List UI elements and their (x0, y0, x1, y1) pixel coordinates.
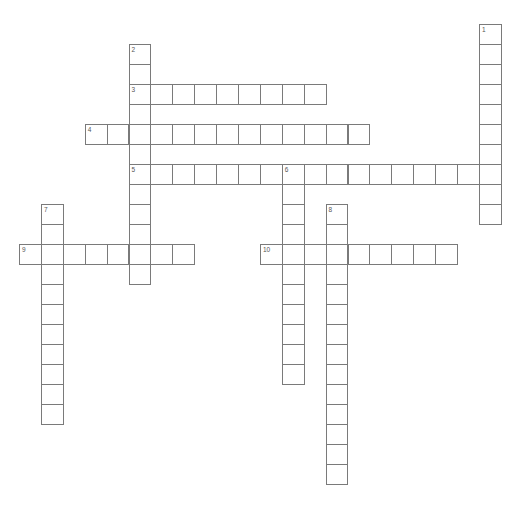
crossword-cell[interactable] (479, 44, 502, 65)
crossword-cell[interactable]: 10 (260, 244, 283, 265)
crossword-cell[interactable] (150, 244, 173, 265)
crossword-cell[interactable] (326, 284, 349, 305)
crossword-cell[interactable] (194, 124, 217, 145)
crossword-cell[interactable]: 9 (19, 244, 42, 265)
crossword-cell[interactable] (304, 164, 327, 185)
crossword-cell[interactable] (150, 124, 173, 145)
crossword-cell[interactable] (326, 364, 349, 385)
crossword-cell[interactable] (41, 264, 64, 285)
crossword-cell[interactable] (435, 164, 458, 185)
crossword-cell[interactable] (194, 84, 217, 105)
crossword-cell[interactable] (41, 404, 64, 425)
crossword-cell[interactable]: 6 (282, 164, 305, 185)
crossword-cell[interactable] (216, 124, 239, 145)
crossword-cell[interactable] (479, 204, 502, 225)
crossword-cell[interactable] (129, 204, 152, 225)
crossword-cell[interactable] (129, 144, 152, 165)
crossword-cell[interactable] (172, 164, 195, 185)
crossword-cell[interactable] (326, 384, 349, 405)
crossword-cell[interactable] (282, 184, 305, 205)
crossword-cell[interactable] (326, 304, 349, 325)
crossword-cell[interactable] (326, 404, 349, 425)
crossword-cell[interactable] (172, 244, 195, 265)
crossword-cell[interactable] (129, 264, 152, 285)
crossword-cell[interactable] (41, 244, 64, 265)
crossword-cell[interactable]: 3 (129, 84, 152, 105)
crossword-cell[interactable]: 7 (41, 204, 64, 225)
crossword-cell[interactable] (369, 244, 392, 265)
crossword-cell[interactable] (282, 324, 305, 345)
crossword-cell[interactable] (326, 444, 349, 465)
crossword-cell[interactable] (413, 244, 436, 265)
crossword-cell[interactable] (326, 224, 349, 245)
crossword-cell[interactable] (238, 124, 261, 145)
crossword-cell[interactable] (260, 164, 283, 185)
crossword-cell[interactable] (41, 304, 64, 325)
crossword-cell[interactable] (129, 64, 152, 85)
crossword-cell[interactable] (150, 164, 173, 185)
crossword-cell[interactable] (41, 324, 64, 345)
crossword-cell[interactable]: 8 (326, 204, 349, 225)
crossword-cell[interactable] (304, 124, 327, 145)
crossword-cell[interactable] (260, 84, 283, 105)
crossword-cell[interactable] (238, 84, 261, 105)
crossword-cell[interactable] (457, 164, 480, 185)
crossword-cell[interactable] (326, 264, 349, 285)
crossword-cell[interactable] (107, 124, 130, 145)
crossword-cell[interactable] (129, 104, 152, 125)
crossword-cell[interactable] (348, 244, 371, 265)
crossword-cell[interactable] (348, 164, 371, 185)
crossword-cell[interactable] (216, 164, 239, 185)
crossword-cell[interactable] (479, 64, 502, 85)
crossword-cell[interactable] (41, 384, 64, 405)
crossword-cell[interactable]: 4 (85, 124, 108, 145)
crossword-cell[interactable]: 2 (129, 44, 152, 65)
crossword-cell[interactable]: 5 (129, 164, 152, 185)
crossword-cell[interactable] (282, 364, 305, 385)
crossword-cell[interactable] (326, 164, 349, 185)
crossword-cell[interactable] (282, 244, 305, 265)
crossword-cell[interactable] (326, 424, 349, 445)
crossword-cell[interactable] (194, 164, 217, 185)
crossword-cell[interactable] (63, 244, 86, 265)
crossword-cell[interactable] (326, 244, 349, 265)
crossword-cell[interactable] (282, 264, 305, 285)
crossword-cell[interactable] (348, 124, 371, 145)
crossword-cell[interactable] (150, 84, 173, 105)
crossword-cell[interactable] (326, 344, 349, 365)
crossword-cell[interactable] (238, 164, 261, 185)
crossword-cell[interactable] (216, 84, 239, 105)
crossword-cell[interactable] (282, 224, 305, 245)
crossword-cell[interactable] (326, 124, 349, 145)
crossword-cell[interactable] (391, 164, 414, 185)
crossword-cell[interactable] (172, 84, 195, 105)
crossword-cell[interactable] (479, 104, 502, 125)
crossword-cell[interactable] (260, 124, 283, 145)
crossword-cell[interactable] (41, 224, 64, 245)
crossword-cell[interactable] (479, 144, 502, 165)
crossword-cell[interactable] (107, 244, 130, 265)
crossword-cell[interactable] (413, 164, 436, 185)
crossword-cell[interactable] (391, 244, 414, 265)
crossword-cell[interactable] (435, 244, 458, 265)
crossword-cell[interactable] (129, 184, 152, 205)
crossword-cell[interactable] (479, 84, 502, 105)
crossword-cell[interactable] (85, 244, 108, 265)
crossword-cell[interactable] (282, 124, 305, 145)
crossword-cell[interactable] (304, 84, 327, 105)
crossword-cell[interactable] (282, 204, 305, 225)
crossword-cell[interactable]: 1 (479, 24, 502, 45)
crossword-cell[interactable] (129, 244, 152, 265)
crossword-cell[interactable] (326, 464, 349, 485)
crossword-cell[interactable] (369, 164, 392, 185)
crossword-cell[interactable] (479, 164, 502, 185)
crossword-cell[interactable] (41, 284, 64, 305)
crossword-cell[interactable] (479, 124, 502, 145)
crossword-cell[interactable] (326, 324, 349, 345)
crossword-cell[interactable] (282, 304, 305, 325)
crossword-cell[interactable] (172, 124, 195, 145)
crossword-cell[interactable] (129, 124, 152, 145)
crossword-cell[interactable] (304, 244, 327, 265)
crossword-cell[interactable] (282, 284, 305, 305)
crossword-cell[interactable] (282, 344, 305, 365)
